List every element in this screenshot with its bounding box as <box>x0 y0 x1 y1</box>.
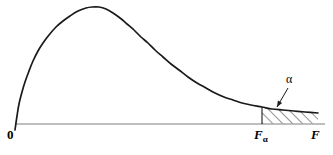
critical-value-base: F <box>254 127 263 142</box>
axis-label-origin: 0 <box>7 128 14 141</box>
axis-label-critical-value: Fα <box>254 128 268 144</box>
critical-value-subscript: α <box>263 134 268 144</box>
alpha-arrow-head-icon <box>277 101 282 107</box>
alpha-leader-line <box>277 88 288 107</box>
axis-label-f-variable: F <box>311 128 320 141</box>
f-distribution-figure: 0 Fα F α <box>0 0 333 155</box>
figure-canvas <box>0 0 333 155</box>
alpha-area-label: α <box>286 73 292 85</box>
